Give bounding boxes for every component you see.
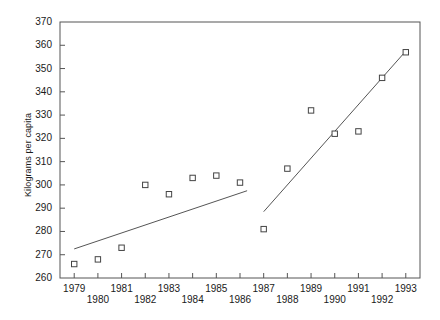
x-tick-label: 1985 xyxy=(199,284,233,294)
x-tick-label: 1992 xyxy=(365,295,399,305)
data-point-marker xyxy=(237,180,242,185)
trend-line xyxy=(74,191,247,249)
y-tick-label: 310 xyxy=(26,157,52,167)
x-tick-label: 1987 xyxy=(247,284,281,294)
data-point-marker xyxy=(356,129,361,134)
data-point-marker xyxy=(261,226,266,231)
y-tick-label: 330 xyxy=(26,110,52,120)
y-tick-label: 340 xyxy=(26,87,52,97)
x-tick-label: 1984 xyxy=(176,295,210,305)
data-point-marker xyxy=(285,166,290,171)
y-tick-label: 290 xyxy=(26,203,52,213)
data-point-marker xyxy=(308,108,313,113)
data-point-marker xyxy=(143,182,148,187)
x-tick-label: 1988 xyxy=(270,295,304,305)
y-tick-label: 320 xyxy=(26,133,52,143)
x-tick-label: 1980 xyxy=(81,295,115,305)
y-tick-label: 370 xyxy=(26,17,52,27)
x-tick-label: 1991 xyxy=(341,284,375,294)
data-point-marker xyxy=(332,131,337,136)
x-tick-label: 1993 xyxy=(389,284,423,294)
data-point-marker xyxy=(119,245,124,250)
tick-marks-layer xyxy=(60,45,406,278)
y-tick-label: 360 xyxy=(26,40,52,50)
x-tick-label: 1989 xyxy=(294,284,328,294)
data-point-marker xyxy=(166,192,171,197)
x-tick-label: 1990 xyxy=(318,295,352,305)
y-tick-label: 300 xyxy=(26,180,52,190)
x-tick-label: 1981 xyxy=(105,284,139,294)
x-tick-label: 1982 xyxy=(128,295,162,305)
axes-layer xyxy=(60,22,420,278)
data-point-marker xyxy=(190,175,195,180)
y-tick-label: 260 xyxy=(26,273,52,283)
caption-fragment xyxy=(8,310,98,316)
x-tick-label: 1983 xyxy=(152,284,186,294)
chart-figure: Kilograms per capita 2602702802903003103… xyxy=(0,0,440,320)
data-point-marker xyxy=(403,50,408,55)
y-tick-label: 270 xyxy=(26,250,52,260)
data-point-marker xyxy=(379,75,384,80)
y-tick-label: 350 xyxy=(26,64,52,74)
trend-lines-layer xyxy=(74,51,406,249)
scatter-plot-canvas xyxy=(0,0,440,320)
data-point-marker xyxy=(95,257,100,262)
y-tick-label: 280 xyxy=(26,226,52,236)
data-point-marker xyxy=(214,173,219,178)
plot-frame xyxy=(60,22,420,278)
x-tick-label: 1979 xyxy=(57,284,91,294)
x-tick-label: 1986 xyxy=(223,295,257,305)
data-point-marker xyxy=(72,261,77,266)
data-points-layer xyxy=(72,50,409,267)
